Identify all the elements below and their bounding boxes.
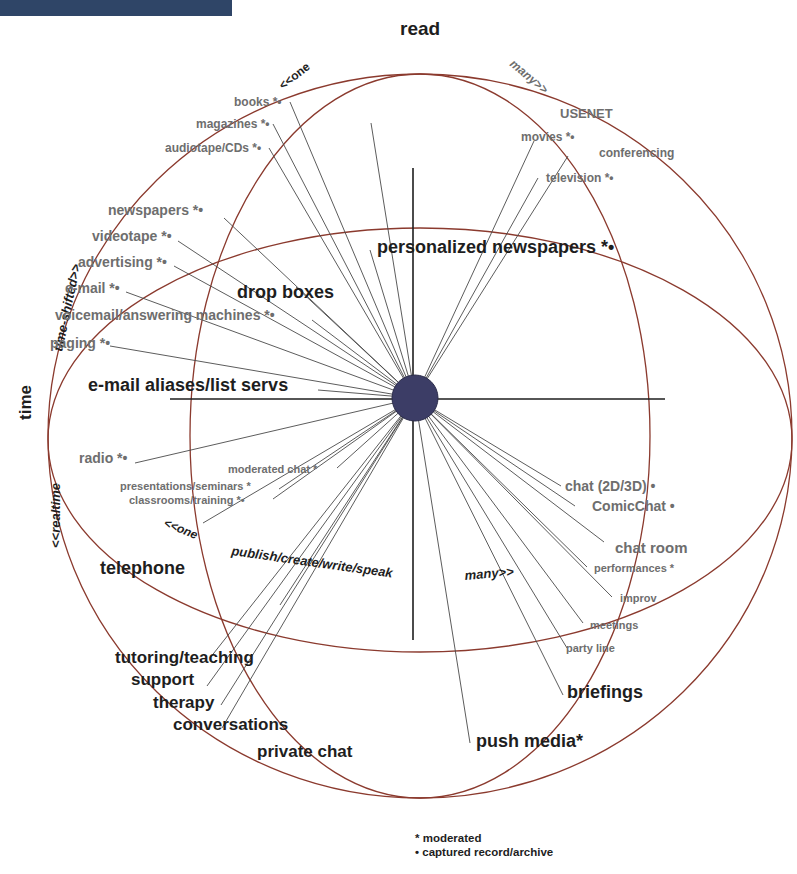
spoke-line bbox=[415, 398, 583, 623]
label-movies: movies *• bbox=[521, 130, 575, 144]
label-voicemail: voicemail/answering machines *• bbox=[55, 307, 275, 323]
label-personalized-newspapers: personalized newspapers *• bbox=[377, 237, 614, 257]
arc-label-one-top: <<one bbox=[276, 59, 313, 92]
spoke-line bbox=[135, 398, 415, 463]
label-push-media: push media* bbox=[476, 731, 583, 751]
spoke-line bbox=[279, 398, 415, 489]
outer-sphere-outline bbox=[48, 74, 792, 798]
label-conferencing: conferencing bbox=[599, 146, 674, 160]
spoke-line bbox=[273, 398, 415, 499]
label-support: support bbox=[131, 670, 195, 689]
label-presentations: presentations/seminars * bbox=[120, 480, 252, 492]
legend: * moderated • captured record/archive bbox=[415, 831, 553, 859]
label-television: television *• bbox=[546, 171, 614, 185]
label-newspapers: newspapers *• bbox=[108, 202, 203, 218]
arc-label-one-bottom: <<one bbox=[162, 516, 200, 542]
label-usenet: USENET bbox=[560, 106, 613, 121]
label-tutoring: tutoring/teaching bbox=[115, 648, 254, 667]
legend-item-moderated: * moderated bbox=[415, 831, 553, 845]
label-drop-boxes: drop boxes bbox=[237, 282, 334, 302]
label-email-aliases: e-mail aliases/list servs bbox=[88, 375, 288, 395]
spoke-line bbox=[415, 398, 575, 506]
label-telephone: telephone bbox=[100, 558, 185, 578]
horizontal-equator-ellipse bbox=[48, 228, 792, 652]
label-comicchat: ComicChat • bbox=[592, 498, 675, 514]
label-improv: improv bbox=[620, 592, 658, 604]
label-private-chat: private chat bbox=[257, 742, 353, 761]
label-chat-room: chat room bbox=[615, 539, 688, 556]
spoke-line bbox=[415, 398, 470, 743]
label-moderated-chat: moderated chat * bbox=[228, 463, 318, 475]
label-chat-2d3d: chat (2D/3D) • bbox=[565, 478, 656, 494]
label-meetings: meetings bbox=[590, 619, 638, 631]
label-email: e-mail *• bbox=[65, 280, 120, 296]
label-party-line: party line bbox=[566, 642, 615, 654]
spoke-line bbox=[415, 156, 568, 398]
arc-label-many-bottom: many>> bbox=[464, 564, 515, 583]
legend-item-archive: • captured record/archive bbox=[415, 845, 553, 859]
spoke-line bbox=[415, 398, 587, 567]
arc-label-publish: publish/create/write/speak bbox=[230, 543, 395, 581]
spoke-lines bbox=[110, 102, 612, 743]
center-hub bbox=[392, 375, 438, 421]
spoke-line bbox=[269, 148, 415, 398]
axis-label-read: read bbox=[400, 18, 440, 39]
label-briefings: briefings bbox=[567, 682, 643, 702]
spoke-line bbox=[210, 398, 415, 658]
arc-label-realtime: <<realtime bbox=[48, 483, 63, 548]
spoke-line bbox=[273, 124, 415, 398]
label-performances: performances * bbox=[594, 562, 675, 574]
label-magazines: magazines *• bbox=[196, 117, 270, 131]
label-paging: paging *• bbox=[50, 335, 110, 351]
label-books: books *• bbox=[234, 95, 282, 109]
spoke-line bbox=[415, 141, 534, 398]
label-audiotape: audiotape/CDs *• bbox=[165, 141, 261, 155]
label-advertising: advertising *• bbox=[78, 254, 167, 270]
spoke-line bbox=[415, 178, 538, 398]
spoke-line bbox=[415, 398, 567, 648]
label-classrooms: classrooms/training *• bbox=[129, 494, 245, 506]
spoke-line bbox=[415, 398, 604, 542]
spoke-line bbox=[371, 123, 415, 398]
spoke-line bbox=[415, 398, 612, 597]
label-conversations: conversations bbox=[173, 715, 288, 734]
communication-sphere-diagram: read time <<one many>> time-shifted>> <<… bbox=[0, 0, 797, 874]
label-videotape: videotape *• bbox=[92, 228, 172, 244]
label-therapy: therapy bbox=[153, 693, 215, 712]
label-radio: radio *• bbox=[79, 450, 128, 466]
axis-label-time: time bbox=[16, 385, 35, 420]
